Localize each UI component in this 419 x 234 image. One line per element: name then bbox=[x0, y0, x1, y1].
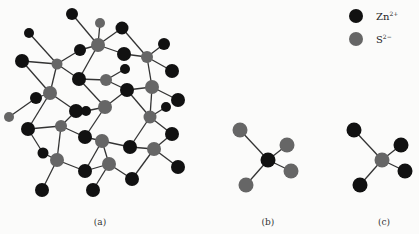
zn-atom bbox=[171, 160, 185, 174]
zn-atom bbox=[347, 123, 362, 138]
s-atom bbox=[141, 51, 153, 63]
zn-atom bbox=[35, 183, 49, 197]
s-atom bbox=[50, 153, 64, 167]
zn-atom bbox=[165, 64, 179, 78]
zn-atom bbox=[120, 64, 130, 74]
lattice-bond bbox=[29, 33, 57, 64]
zn-atom bbox=[24, 28, 34, 38]
s-atom bbox=[100, 74, 112, 86]
zn-atom bbox=[117, 47, 131, 61]
zn-atom bbox=[21, 122, 35, 136]
caption-a: (a) bbox=[94, 217, 106, 227]
s-atom bbox=[233, 123, 248, 138]
zn-atom bbox=[78, 130, 92, 144]
zn-atom bbox=[116, 22, 129, 35]
s-atom bbox=[102, 157, 116, 171]
zn-atom bbox=[353, 178, 368, 193]
zn-atom bbox=[123, 140, 137, 154]
zn-atom bbox=[398, 164, 413, 179]
zn-atom bbox=[74, 44, 86, 56]
zn-atom bbox=[171, 93, 185, 107]
s-atom bbox=[239, 178, 254, 193]
zn-atom bbox=[394, 138, 409, 153]
legend-zn-swatch bbox=[349, 9, 363, 23]
s-atom bbox=[280, 138, 295, 153]
s-atom bbox=[95, 18, 105, 28]
panel-c-s-tetrahedron bbox=[347, 123, 413, 193]
center-s-atom bbox=[375, 153, 390, 168]
legend-s-swatch bbox=[349, 32, 363, 46]
zn-atom bbox=[69, 104, 83, 118]
s-atom bbox=[4, 112, 14, 122]
zn-atom bbox=[81, 106, 91, 116]
caption-b: (b) bbox=[262, 217, 275, 227]
zn-atom bbox=[78, 164, 92, 178]
s-atom bbox=[145, 80, 159, 94]
zn-atom bbox=[72, 72, 86, 86]
s-atom bbox=[91, 38, 105, 52]
zinc-blende-figure: (a) (b) (c) Zn2+ S2− bbox=[0, 0, 419, 234]
legend-s-label: S2− bbox=[376, 33, 392, 45]
s-atom bbox=[98, 100, 112, 114]
zn-atom bbox=[125, 172, 139, 186]
zn-atom bbox=[66, 8, 78, 20]
zn-atom bbox=[120, 83, 134, 97]
s-atom bbox=[147, 142, 161, 156]
s-atom bbox=[52, 59, 63, 70]
zn-atom bbox=[165, 127, 179, 141]
center-zn-atom bbox=[261, 153, 276, 168]
panel-b-zn-tetrahedron bbox=[233, 123, 299, 193]
legend-zn-label: Zn2+ bbox=[376, 10, 398, 22]
zn-atom bbox=[38, 148, 49, 159]
s-atom bbox=[144, 111, 157, 124]
s-atom bbox=[43, 86, 57, 100]
s-atom bbox=[95, 134, 109, 148]
zn-atom bbox=[158, 38, 170, 50]
s-atom bbox=[284, 164, 299, 179]
caption-c: (c) bbox=[378, 217, 390, 227]
s-atom bbox=[55, 120, 67, 132]
zn-atom bbox=[161, 102, 171, 112]
zn-atom bbox=[15, 54, 29, 68]
legend: Zn2+ S2− bbox=[349, 9, 398, 46]
zn-atom bbox=[30, 92, 42, 104]
zn-atom bbox=[86, 183, 100, 197]
